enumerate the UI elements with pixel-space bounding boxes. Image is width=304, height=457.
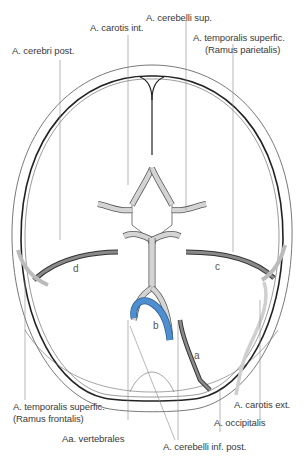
label-vertebrales: Aa. vertebrales (62, 433, 124, 445)
falx-cerebri (140, 77, 152, 155)
label-temporalis-frontalis-1: A. temporalis superfic. (13, 401, 105, 413)
label-temporalis-parietalis-1: A. temporalis superfic. (193, 32, 285, 44)
label-carotis-int: A. carotis int. (90, 22, 143, 34)
label-cerebelli-sup: A. cerebelli sup. (146, 12, 212, 24)
label-carotis-ext: A. carotis ext. (234, 399, 290, 411)
label-occipitalis: A. occipitalis (214, 417, 265, 429)
letter-a: a (194, 350, 200, 361)
letter-b: b (153, 320, 159, 331)
letter-c: c (215, 261, 220, 272)
label-cerebelli-inf-post: A. cerebelli inf. post. (163, 441, 246, 453)
label-cerebri-post: A. cerebri post. (12, 45, 74, 57)
label-temporalis-parietalis-2: (Ramus parietalis) (205, 44, 280, 56)
skull-base-diagram (0, 0, 304, 457)
label-temporalis-frontalis-2: (Ramus frontalis) (13, 413, 84, 425)
letter-d: d (73, 263, 79, 274)
